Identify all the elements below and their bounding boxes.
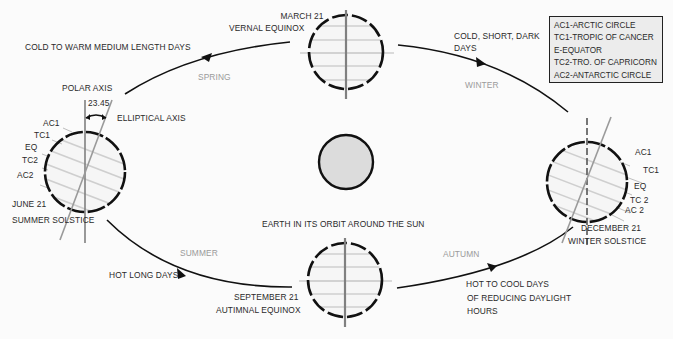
spring-description: COLD TO WARM MEDIUM LENGTH DAYS [25, 42, 191, 53]
december-date-label: DECEMBER 21 [570, 223, 652, 234]
latitude-label-eq: EQ [25, 142, 37, 153]
arrow-icon [476, 57, 486, 67]
arrow-icon [201, 53, 212, 62]
tilt-angle-label: 23.45 [88, 98, 109, 109]
legend-item-equator: E-EQUATOR [554, 45, 662, 57]
diagram-canvas: MARCH 21 VERNAL EQUINOX COLD TO WARM MED… [0, 0, 673, 339]
march-date-label: MARCH 21 [256, 11, 348, 22]
season-spring-label: SPRING [198, 72, 231, 83]
orbit-arc-winter [398, 45, 568, 112]
september-date-label: SEPTEMBER 21 [234, 292, 299, 303]
latitude-label-tc1: TC1 [34, 130, 50, 141]
legend-item-ac1: AC1-ARCTIC CIRCLE [554, 20, 662, 32]
diagram-title: EARTH IN ITS ORBIT AROUND THE SUN [262, 219, 424, 230]
season-winter-label: WINTER [465, 80, 499, 91]
sun-icon [319, 135, 373, 189]
latitude-label-eq: EQ [634, 181, 646, 192]
season-autumn-label: AUTUMN [443, 249, 479, 260]
summer-solstice-label: SUMMER SOLSTICE [12, 215, 94, 226]
winter-description-line1: COLD, SHORT, DARK [454, 31, 540, 42]
latitude-label-tc2: TC2 [22, 155, 38, 166]
autumn-description-line1: HOT TO COOL DAYS [466, 279, 549, 290]
vernal-equinox-label: VERNAL EQUINOX [229, 23, 305, 34]
legend-item-tc1: TC1-TROPIC OF CANCER [554, 32, 662, 44]
legend-item-tc2: TC2-TRO. OF CAPRICORN [554, 57, 662, 69]
june-date-label: JUNE 21 [12, 199, 46, 210]
earth-globe-september [299, 238, 392, 327]
autumn-description-line3: HOURS [467, 306, 498, 317]
elliptical-axis-label: ELLIPTICAL AXIS [117, 113, 186, 124]
legend-item-ac2: AC2-ANTARCTIC CIRCLE [554, 70, 662, 82]
latitude-label-tc1: TC1 [643, 165, 659, 176]
latitude-label-ac2: AC2 [17, 170, 34, 181]
winter-solstice-label: WINTER SOLSTICE [568, 236, 646, 247]
latitude-label-ac1: AC1 [43, 118, 60, 129]
autumn-description-line2: OF REDUCING DAYLIGHT [467, 293, 571, 304]
autumnal-equinox-label: AUTIMNAL EQUINOX [216, 305, 301, 316]
legend-box: AC1-ARCTIC CIRCLE TC1-TROPIC OF CANCER E… [549, 16, 663, 83]
season-summer-label: SUMMER [180, 248, 218, 259]
latitude-label-ac2: AC 2 [625, 205, 644, 216]
polar-axis-label: POLAR AXIS [62, 83, 112, 94]
latitude-label-ac1: AC1 [635, 147, 652, 158]
earth-globe-march [300, 10, 394, 99]
winter-description-line2: DAYS [454, 43, 477, 54]
summer-description: HOT LONG DAYS [109, 270, 178, 281]
